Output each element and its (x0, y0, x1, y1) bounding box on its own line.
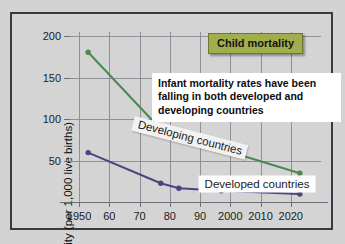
x-axis-tick-label: 2020 (279, 210, 303, 222)
chart-callout-text: Infant mortality rates have been falling… (152, 73, 341, 122)
chart-figure: Infant mortality (per 1,000 live births)… (10, 12, 333, 230)
data-point (176, 186, 181, 191)
series-label-developed: Developed countries (199, 176, 316, 193)
x-axis-tick-label: 1950 (67, 210, 91, 222)
x-axis-tick-label: 60 (103, 210, 115, 222)
x-axis-tick-label: 2000 (218, 210, 242, 222)
data-point (85, 50, 90, 55)
y-axis-tick-label: 150 (43, 72, 61, 84)
y-axis-tick-label: 50 (49, 155, 61, 167)
y-axis-tick-label: 200 (43, 30, 61, 42)
data-point (158, 181, 163, 186)
x-axis-tick-label: 70 (133, 210, 145, 222)
y-axis-tick-label: 100 (43, 113, 61, 125)
x-axis-tick-label: 90 (194, 210, 206, 222)
data-point (85, 150, 90, 155)
chart-title-badge: Child mortality (208, 33, 303, 54)
x-axis-tick-label: 80 (164, 210, 176, 222)
x-axis-tick-label: 2010 (248, 210, 272, 222)
